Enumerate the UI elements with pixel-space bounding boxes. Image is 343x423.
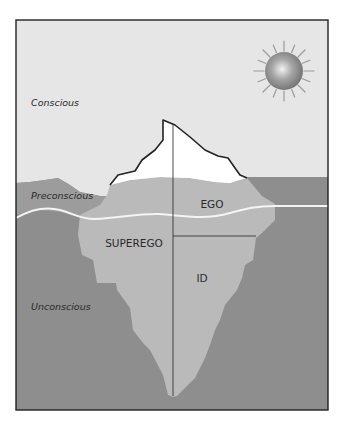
iceberg-diagram: Conscious Preconscious Unconscious EGO S…: [0, 0, 343, 423]
label-conscious: Conscious: [31, 97, 79, 108]
label-ego: EGO: [200, 198, 223, 210]
sun-icon: [254, 41, 314, 101]
label-unconscious: Unconscious: [31, 301, 91, 312]
label-preconscious: Preconscious: [31, 190, 93, 201]
label-superego: SUPEREGO: [105, 237, 163, 249]
label-id: ID: [196, 272, 207, 284]
